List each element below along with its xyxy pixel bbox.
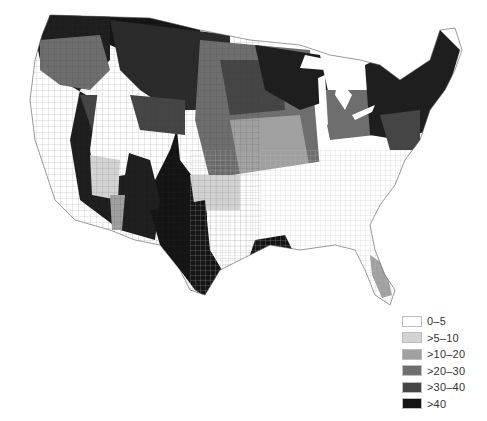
- legend-swatch: [402, 382, 422, 393]
- legend-item: 0–5: [402, 313, 465, 329]
- legend-label: >5–10: [427, 332, 459, 344]
- legend-label: >20–30: [427, 365, 465, 377]
- legend-swatch: [402, 349, 422, 360]
- legend-item: >5–10: [402, 330, 465, 346]
- legend-swatch: [402, 365, 422, 376]
- legend-label: 0–5: [427, 315, 446, 327]
- legend-item: >40: [402, 396, 465, 412]
- map-legend: 0–5 >5–10 >10–20 >20–30 >30–40 >40: [402, 313, 465, 412]
- legend-swatch: [402, 398, 422, 409]
- legend-item: >20–30: [402, 363, 465, 379]
- legend-swatch: [402, 316, 422, 327]
- legend-label: >30–40: [427, 381, 465, 393]
- legend-label: >10–20: [427, 348, 465, 360]
- legend-swatch: [402, 332, 422, 343]
- legend-item: >10–20: [402, 346, 465, 362]
- legend-label: >40: [427, 398, 446, 410]
- legend-item: >30–40: [402, 379, 465, 395]
